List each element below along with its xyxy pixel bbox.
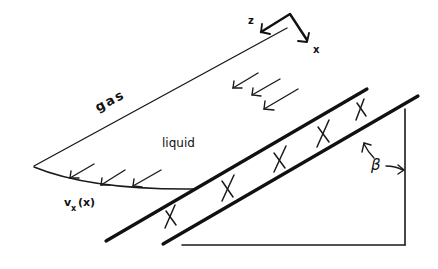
angle-beta-label: β	[370, 156, 381, 174]
coordinate-axes: z x	[248, 14, 320, 55]
velocity-label: v x (x)	[64, 196, 95, 213]
arrow-left-down-icon	[264, 89, 298, 110]
velocity-profile-curve	[34, 167, 194, 189]
cross-mark-icon	[222, 175, 234, 201]
velocity-subscript: x	[71, 204, 77, 213]
arrow-left-down-icon	[70, 164, 94, 178]
flow-arrows	[233, 73, 298, 110]
gas-label: gas	[92, 86, 127, 114]
plate-hatch-marks	[165, 99, 366, 228]
velocity-argument: (x)	[78, 196, 95, 209]
plate-upper-surface	[106, 89, 367, 241]
liquid-label: liquid	[162, 136, 195, 150]
angle-beta-indicator: β	[362, 143, 404, 174]
arrow-left-down-icon	[101, 170, 125, 185]
arrow-left-down-icon	[233, 73, 258, 88]
cross-mark-icon	[274, 146, 286, 172]
cross-mark-icon	[165, 205, 176, 228]
gas-liquid-interface	[34, 28, 287, 166]
cross-mark-icon	[356, 99, 366, 120]
arrow-left-down-icon	[133, 170, 161, 187]
curved-arrow-icon	[386, 165, 404, 174]
z-axis-label: z	[248, 15, 254, 26]
cross-mark-icon	[317, 120, 329, 147]
velocity-profile-arrows	[70, 164, 161, 187]
x-axis-label: x	[313, 44, 320, 55]
arrow-left-down-icon	[252, 79, 280, 96]
falling-film-diagram: z x gas liquid v	[0, 0, 438, 269]
